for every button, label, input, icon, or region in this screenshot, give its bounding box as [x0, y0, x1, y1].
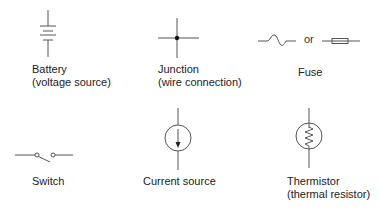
thermistor-label: Thermistor (thermal resistor)	[287, 175, 370, 201]
thermistor-label-line-1: Thermistor	[287, 175, 370, 188]
switch-label: Switch	[32, 175, 64, 188]
thermistor-label-line-2: (thermal resistor)	[287, 188, 370, 201]
battery-label-line-2: (voltage source)	[32, 76, 111, 89]
fuse-label-line-1: Fuse	[298, 66, 322, 79]
junction-icon	[158, 18, 199, 58]
fuse-wave-icon	[258, 35, 296, 45]
thermistor-icon	[296, 108, 322, 168]
current-source-label: Current source	[143, 175, 216, 188]
switch-icon	[15, 153, 73, 162]
battery-label-line-1: Battery	[32, 63, 111, 76]
fuse-label: Fuse	[298, 66, 322, 79]
fuse-or-text: or	[304, 33, 314, 46]
fuse-cartridge-icon	[322, 39, 360, 44]
junction-label-line-1: Junction	[158, 63, 242, 76]
switch-label-line-1: Switch	[32, 175, 64, 188]
battery-icon	[40, 10, 56, 57]
current-source-icon	[165, 108, 191, 170]
current-source-label-line-1: Current source	[143, 175, 216, 188]
battery-label: Battery (voltage source)	[32, 63, 111, 89]
junction-label-line-2: (wire connection)	[158, 76, 242, 89]
junction-label: Junction (wire connection)	[158, 63, 242, 89]
